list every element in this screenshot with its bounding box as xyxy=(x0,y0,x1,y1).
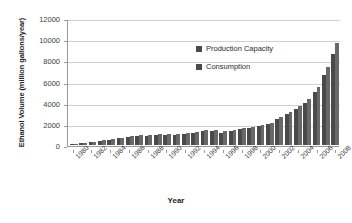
bar-series-container xyxy=(69,19,340,145)
bar-group xyxy=(228,19,237,145)
bar-group xyxy=(69,19,78,145)
bar-group xyxy=(162,19,171,145)
y-axis-tick-label: 8000 xyxy=(43,58,60,66)
x-axis-tick-mark xyxy=(185,150,186,153)
y-axis-tick-mark xyxy=(64,147,67,148)
bar-production-capacity xyxy=(261,125,265,145)
bar-production-capacity xyxy=(270,123,274,145)
bar-group xyxy=(321,19,330,145)
bar-group xyxy=(153,19,162,145)
bar-group xyxy=(312,19,321,145)
bar-production-capacity xyxy=(242,128,246,145)
bar-group xyxy=(237,19,246,145)
ethanol-volume-bar-chart: Ethanol Volume (million gallons/year) 12… xyxy=(0,0,352,223)
bar-production-capacity xyxy=(223,131,227,145)
legend-label-consumption: Consumption xyxy=(206,62,250,71)
bar-group xyxy=(247,19,256,145)
x-axis-tick-mark xyxy=(279,150,280,153)
y-axis-tick-label: 6000 xyxy=(43,80,60,88)
x-axis-tick-labels: 1980198219841986198819901992199419961998… xyxy=(68,150,339,184)
x-axis-title: Year xyxy=(0,196,352,205)
y-axis-tick-mark xyxy=(64,62,67,63)
x-axis-tick-mark xyxy=(298,150,299,153)
x-axis-tick-mark xyxy=(91,150,92,153)
bar-production-capacity xyxy=(148,135,152,145)
bar-group xyxy=(172,19,181,145)
bar-production-capacity xyxy=(92,142,96,145)
legend-swatch-production-capacity xyxy=(196,46,202,52)
y-axis-tick-mark xyxy=(64,41,67,42)
bar-group xyxy=(125,19,134,145)
x-axis-tick-mark xyxy=(148,150,149,153)
legend-swatch-consumption xyxy=(196,64,202,70)
x-axis-tick-mark xyxy=(260,150,261,153)
bar-group xyxy=(284,19,293,145)
x-axis-tick-mark xyxy=(335,150,336,153)
bar-production-capacity xyxy=(130,136,134,145)
bar-group xyxy=(144,19,153,145)
bar-production-capacity xyxy=(279,117,283,145)
y-axis-tick-label: 12000 xyxy=(39,16,60,24)
bar-production-capacity xyxy=(307,99,311,145)
bar-production-capacity xyxy=(298,106,302,145)
bar-group xyxy=(209,19,218,145)
bar-production-capacity xyxy=(289,112,293,145)
bar-production-capacity xyxy=(74,144,78,145)
bar-group xyxy=(78,19,87,145)
y-axis-tick-mark xyxy=(64,20,67,21)
chart-legend: Production Capacity Consumption xyxy=(196,44,273,71)
y-axis-tick-label: 2000 xyxy=(43,122,60,130)
bar-production-capacity xyxy=(111,139,115,145)
bar-group xyxy=(200,19,209,145)
bar-group xyxy=(106,19,115,145)
bar-group xyxy=(181,19,190,145)
bar-group xyxy=(190,19,199,145)
y-axis-tick-label: 10000 xyxy=(39,37,60,45)
x-axis-tick-mark xyxy=(317,150,318,153)
y-axis-title: Ethanol Volume (million gallons/year) xyxy=(17,0,26,168)
bar-group xyxy=(219,19,228,145)
x-axis-tick-mark xyxy=(223,150,224,153)
bar-group xyxy=(97,19,106,145)
x-axis-tick-mark xyxy=(204,150,205,153)
y-axis-tick-mark xyxy=(64,126,67,127)
bar-production-capacity xyxy=(317,87,321,145)
legend-entry-consumption: Consumption xyxy=(196,62,273,71)
bar-production-capacity xyxy=(167,134,171,145)
x-axis-tick-mark xyxy=(242,150,243,153)
legend-label-production-capacity: Production Capacity xyxy=(206,44,273,53)
bar-group xyxy=(88,19,97,145)
bar-group xyxy=(256,19,265,145)
x-axis-tick-mark xyxy=(166,150,167,153)
bar-group xyxy=(331,19,340,145)
x-axis-tick-mark xyxy=(110,150,111,153)
y-axis-tick-label: 0 xyxy=(56,143,60,151)
legend-entry-production-capacity: Production Capacity xyxy=(196,44,273,53)
bar-production-capacity xyxy=(251,127,255,145)
bar-production-capacity xyxy=(204,130,208,145)
bar-production-capacity xyxy=(326,67,330,145)
bar-production-capacity xyxy=(335,43,339,145)
y-axis-tick-mark xyxy=(64,84,67,85)
bar-group xyxy=(134,19,143,145)
bar-group xyxy=(265,19,274,145)
bar-production-capacity xyxy=(186,133,190,145)
bar-group xyxy=(116,19,125,145)
x-axis-tick-mark xyxy=(129,150,130,153)
y-axis-tick-label: 4000 xyxy=(43,101,60,109)
y-axis-tick-mark xyxy=(64,105,67,106)
bar-group xyxy=(275,19,284,145)
bar-group xyxy=(303,19,312,145)
plot-wrapper: 120001000080006000400020000 xyxy=(67,20,339,147)
bar-group xyxy=(293,19,302,145)
x-axis-tick-mark xyxy=(73,150,74,153)
plot-area xyxy=(67,20,339,147)
